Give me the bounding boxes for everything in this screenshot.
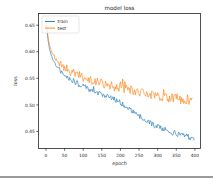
x-tick-label: 150: [98, 153, 107, 158]
legend-label-test: test: [58, 26, 67, 31]
x-tick-label: 250: [135, 153, 144, 158]
x-tick-label: 400: [191, 153, 200, 158]
y-axis-title: loss: [13, 76, 18, 86]
figure-canvas: 0501001502002503003504000.450.500.550.60…: [0, 0, 213, 176]
model-loss-chart: 0501001502002503003504000.450.500.550.60…: [0, 0, 213, 176]
x-tick-label: 350: [172, 153, 181, 158]
x-tick-label: 200: [116, 153, 125, 158]
x-axis-title: epoch: [112, 161, 127, 166]
window-bottom-bar: [0, 176, 213, 193]
y-tick-label: 0.60: [25, 49, 35, 54]
x-tick-label: 300: [153, 153, 162, 158]
y-tick-label: 0.50: [25, 103, 35, 108]
y-tick-label: 0.55: [25, 76, 35, 81]
x-tick-label: 50: [62, 153, 68, 158]
legend-label-train: train: [58, 19, 68, 24]
x-tick-label: 100: [79, 153, 88, 158]
chart-title: model loss: [104, 5, 134, 11]
y-tick-label: 0.45: [25, 129, 35, 134]
plot-background: [39, 14, 201, 149]
x-tick-label: 0: [45, 153, 48, 158]
y-tick-label: 0.65: [25, 23, 35, 28]
